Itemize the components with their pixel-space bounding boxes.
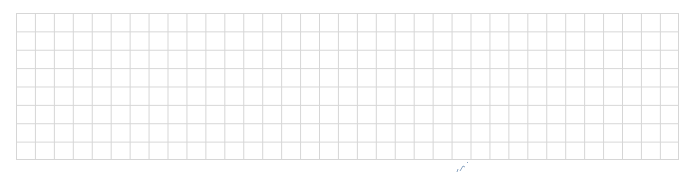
grid-paper <box>16 13 679 160</box>
pen-scribble-icon <box>455 160 471 174</box>
